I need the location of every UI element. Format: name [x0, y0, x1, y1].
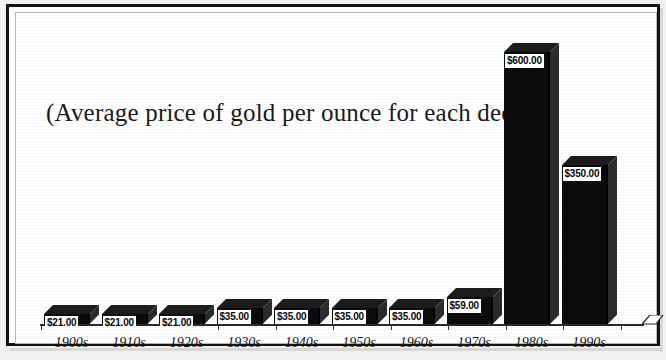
bar-1990s — [562, 156, 617, 324]
axis-tick — [506, 324, 507, 330]
axis-tick — [391, 324, 392, 330]
bar-front-face — [562, 165, 608, 324]
x-axis-label-1940s: 1940s — [270, 335, 333, 351]
bar-side-face — [205, 305, 214, 324]
chart-outer-border: (Average price of gold per ounce for eac… — [6, 4, 660, 346]
bar-side-face — [320, 299, 329, 324]
bar-value-label: $35.00 — [275, 310, 308, 324]
bar-value-label: $21.00 — [45, 316, 78, 330]
axis-tick — [621, 324, 622, 330]
axis-tick — [218, 324, 219, 330]
bar-series: $21.00$21.00$21.00$35.00$35.00$35.00$35.… — [30, 25, 666, 349]
bar-side-face — [378, 299, 387, 324]
bar-side-face — [550, 43, 559, 324]
axis-tick — [563, 324, 564, 330]
bar-side-face — [608, 156, 617, 324]
bar-side-face — [263, 299, 272, 324]
bar-side-face — [90, 305, 99, 324]
chart-screenshot: (Average price of gold per ounce for eac… — [0, 0, 666, 360]
x-axis-label-1970s: 1970s — [443, 335, 506, 351]
bar-side-face — [493, 288, 502, 324]
bar-1980s — [504, 43, 559, 324]
bar-value-label: $35.00 — [333, 310, 366, 324]
x-axis-label-1990s: 1990s — [558, 335, 621, 351]
bar-value-label: $21.00 — [103, 316, 136, 330]
bar-value-label: $59.00 — [448, 299, 481, 313]
axis-tick — [333, 324, 334, 330]
x-axis-label-1910s: 1910s — [98, 335, 161, 351]
x-axis-label-1950s: 1950s — [328, 335, 391, 351]
bar-side-face — [435, 299, 444, 324]
x-axis-label-1900s: 1900s — [40, 335, 103, 351]
plot-area: (Average price of gold per ounce for eac… — [30, 25, 666, 349]
axis-perspective-shelf — [642, 315, 664, 326]
bar-front-face — [504, 52, 550, 324]
x-axis-label-1930s: 1930s — [213, 335, 276, 351]
bar-value-label: $35.00 — [218, 310, 251, 324]
bar-value-label: $600.00 — [505, 54, 544, 68]
bar-value-label: $350.00 — [563, 167, 602, 181]
x-axis-label-1960s: 1960s — [385, 335, 448, 351]
axis-tick — [448, 324, 449, 330]
bar-side-face — [148, 305, 157, 324]
x-axis-label-1920s: 1920s — [155, 335, 218, 351]
bar-value-label: $21.00 — [160, 316, 193, 330]
x-axis-label-1980s: 1980s — [500, 335, 563, 351]
axis-tick — [276, 324, 277, 330]
axis-tick — [41, 324, 42, 330]
chart-inner-border: (Average price of gold per ounce for eac… — [15, 12, 657, 344]
bar-value-label: $35.00 — [390, 310, 423, 324]
